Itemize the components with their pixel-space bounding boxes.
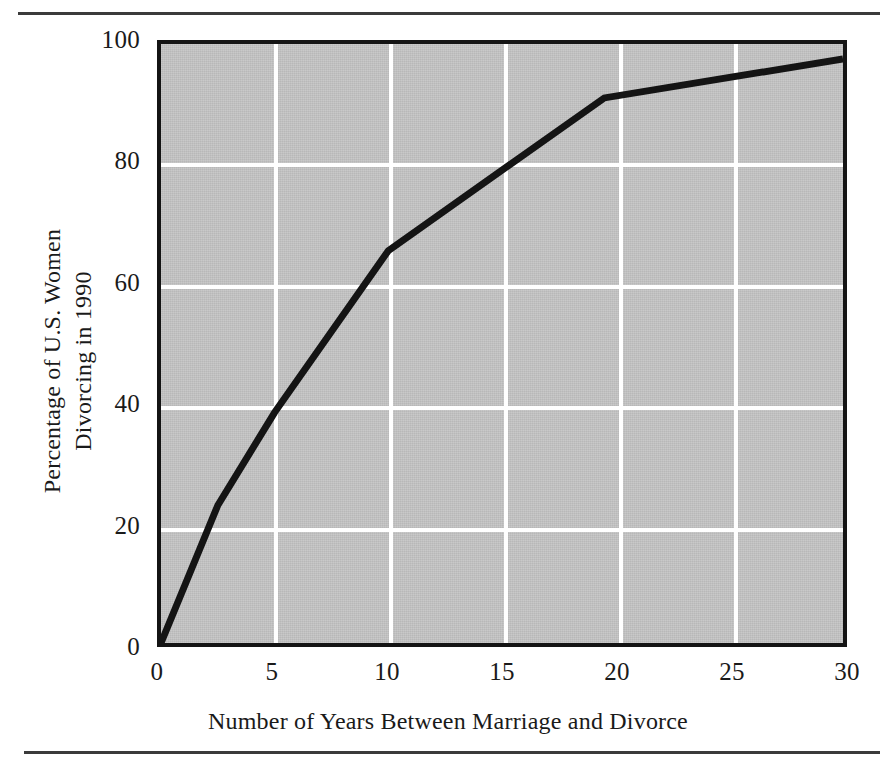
y-axis-tick-label: 0 [127, 634, 140, 659]
x-axis-tick-label: 25 [702, 659, 762, 684]
data-line-svg [161, 44, 843, 643]
chart-figure: 020406080100 051015202530 Number of Year… [0, 0, 896, 766]
top-horizontal-rule [18, 12, 880, 15]
y-axis-tick-label: 100 [102, 27, 140, 52]
x-axis-tick-label: 20 [587, 659, 647, 684]
x-axis-tick-label: 10 [357, 659, 417, 684]
y-axis-tick-label: 60 [114, 270, 140, 295]
x-axis-tick-label: 15 [472, 659, 532, 684]
x-axis-tick-labels: 051015202530 [0, 659, 896, 693]
y-axis-title-line-2: Divorcing in 1990 [68, 151, 99, 571]
y-axis-title: Percentage of U.S. Women Divorcing in 19… [37, 151, 99, 571]
y-axis-tick-label: 40 [114, 391, 140, 416]
data-series-line [161, 59, 843, 643]
y-axis-tick-label: 20 [114, 513, 140, 538]
x-axis-tick-label: 0 [127, 659, 187, 684]
x-axis-tick-label: 30 [817, 659, 877, 684]
y-axis-title-line-1: Percentage of U.S. Women [37, 151, 68, 571]
y-axis-tick-label: 80 [114, 148, 140, 173]
x-axis-tick-label: 5 [242, 659, 302, 684]
x-axis-title: Number of Years Between Marriage and Div… [0, 708, 896, 734]
bottom-horizontal-rule [24, 751, 880, 754]
plot-area [157, 40, 847, 647]
